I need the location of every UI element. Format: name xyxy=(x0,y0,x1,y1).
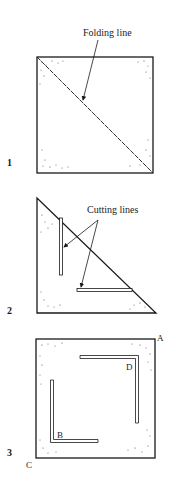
folding-line-arrow-icon xyxy=(83,40,98,100)
corner-label-d: D xyxy=(126,362,133,372)
cutting-lines-label: Cutting lines xyxy=(87,204,139,215)
figure-3: A D B C 3 xyxy=(7,333,164,470)
folding-diagram: Folding line 1 Cutting lines 2 xyxy=(0,0,176,495)
cutting-arrow-1-icon xyxy=(64,220,98,247)
figure-number-3: 3 xyxy=(7,447,12,458)
figure-1: Folding line 1 xyxy=(7,27,153,173)
cutting-line-vertical xyxy=(60,218,63,275)
stipple-texture xyxy=(41,214,146,309)
corner-label-b: B xyxy=(57,430,63,440)
folding-line-label: Folding line xyxy=(83,27,132,38)
cutting-line-horizontal xyxy=(77,289,132,292)
figure-number-1: 1 xyxy=(7,157,12,168)
folded-triangle xyxy=(37,198,156,313)
corner-label-c: C xyxy=(26,460,32,470)
folding-line xyxy=(37,57,153,173)
figure-2: Cutting lines 2 xyxy=(7,198,156,316)
cutting-arrow-2-icon xyxy=(81,220,98,287)
corner-label-a: A xyxy=(157,333,164,343)
figure-number-2: 2 xyxy=(7,305,12,316)
